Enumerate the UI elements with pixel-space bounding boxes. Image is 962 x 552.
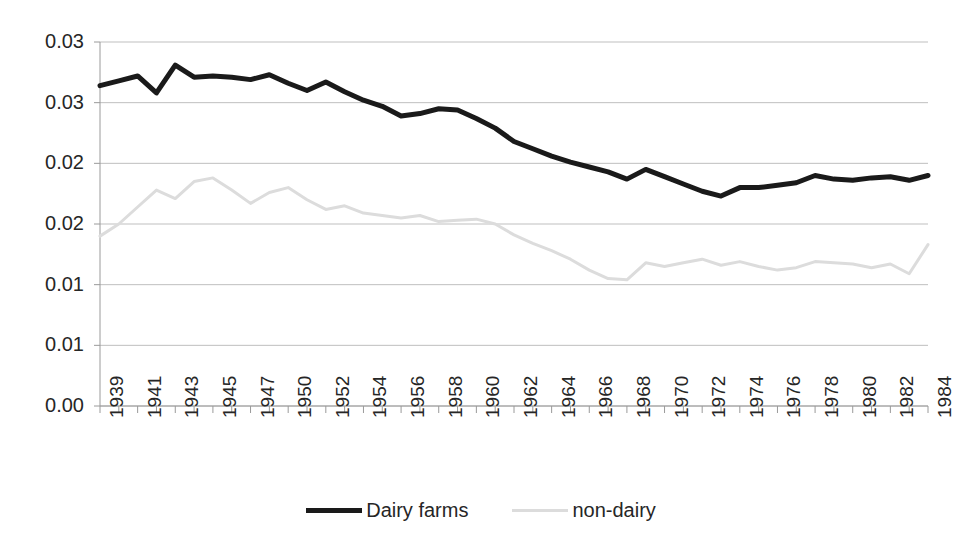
legend-label-dairy-farms: Dairy farms [366,499,468,521]
x-tick-label: 1950 [295,376,314,418]
chart-figure: 0.000.010.010.020.020.030.03 19391941194… [0,0,962,552]
x-tick-label: 1982 [897,376,916,418]
x-tick-label: 1954 [370,376,389,418]
x-tick-label: 1941 [145,376,164,418]
x-tick-label: 1958 [446,376,465,418]
x-tick-label: 1952 [333,376,352,418]
x-tick-label: 1939 [107,376,126,418]
chart-legend: Dairy farms non-dairy [0,490,962,530]
legend-line-swatch-dairy-farms [306,508,362,513]
legend-line-swatch-non-dairy [512,509,568,512]
x-tick-label: 1943 [182,376,201,418]
legend-item-dairy-farms[interactable]: Dairy farms [306,499,468,521]
x-tick-label: 1956 [408,376,427,418]
x-tick-label: 1984 [935,376,954,418]
x-tick-label: 1947 [258,376,277,418]
x-tick-label: 1962 [521,376,540,418]
x-tick-label: 1972 [709,376,728,418]
plot-area: 0.000.010.010.020.020.030.03 19391941194… [0,0,962,552]
x-tick-label: 1964 [559,376,578,418]
x-tick-label: 1966 [596,376,615,418]
x-tick-label: 1980 [860,376,879,418]
x-tick-label: 1970 [672,376,691,418]
x-tick-label: 1976 [784,376,803,418]
legend-item-non-dairy[interactable]: non-dairy [512,499,655,521]
x-tick-label: 1978 [822,376,841,418]
x-tick-label: 1968 [634,376,653,418]
x-tick-label: 1974 [747,376,766,418]
x-tick-label: 1945 [220,376,239,418]
x-axis-tick-labels: 1939194119431945194719501952195419561958… [0,0,962,552]
legend-label-non-dairy: non-dairy [572,499,655,521]
x-tick-label: 1960 [483,376,502,418]
